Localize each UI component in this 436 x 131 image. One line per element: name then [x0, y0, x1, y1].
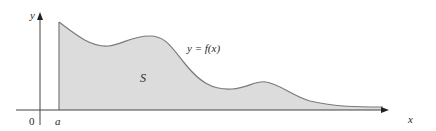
area-under-curve-figure: y x 0 a S y = f(x) — [0, 0, 436, 131]
curve-label: y = f(x) — [186, 42, 220, 55]
origin-label: 0 — [29, 115, 35, 127]
region-label: S — [140, 71, 146, 85]
y-axis-arrow-icon — [37, 12, 43, 20]
region-s — [59, 22, 383, 110]
x-axis-label: x — [407, 113, 413, 125]
x-axis-arrow-icon — [381, 107, 389, 113]
y-axis-label: y — [29, 9, 35, 21]
a-label: a — [55, 115, 61, 127]
